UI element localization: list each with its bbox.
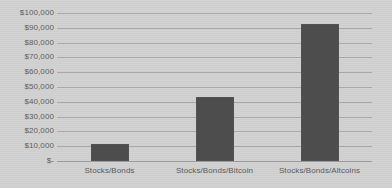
x-tick-label: Stocks/Bonds/Bitcoin [162,166,267,186]
y-axis: $-$10,000$20,000$30,000$40,000$50,000$60… [0,0,54,175]
y-tick-label: $60,000 [0,68,54,76]
y-tick-label: $40,000 [0,98,54,106]
y-tick-label: $80,000 [0,39,54,47]
y-tick-label: $- [0,157,54,165]
x-tick-label: Stocks/Bonds/Altcoins [267,166,372,186]
y-tick-label: $10,000 [0,142,54,150]
bar [196,97,234,161]
axis-baseline [57,161,372,162]
y-tick-label: $70,000 [0,53,54,61]
plot-area [57,13,372,161]
y-tick-label: $30,000 [0,113,54,121]
y-tick-label: $50,000 [0,83,54,91]
bar [301,24,339,161]
x-axis: Stocks/BondsStocks/Bonds/BitcoinStocks/B… [57,166,372,186]
y-tick-label: $90,000 [0,24,54,32]
bar-chart: $-$10,000$20,000$30,000$40,000$50,000$60… [0,0,392,188]
x-tick-label: Stocks/Bonds [57,166,162,186]
bar [91,144,129,161]
y-tick-label: $100,000 [0,9,54,17]
gridline [57,13,372,14]
y-tick-label: $20,000 [0,127,54,135]
